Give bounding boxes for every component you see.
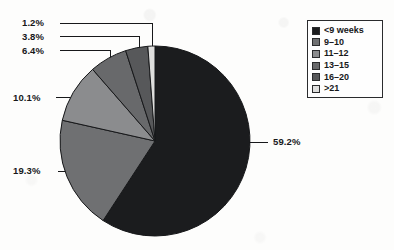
slice-callout-21-plus: 1.2% — [22, 17, 44, 28]
legend-label: >21 — [324, 84, 339, 93]
legend-item-21-plus: >21 — [312, 83, 379, 95]
legend-swatch-icon — [312, 62, 320, 70]
legend-swatch-icon — [312, 85, 320, 93]
legend-item-under-9-weeks: <9 weeks — [312, 25, 379, 37]
slice-callout-11-12: 10.1% — [13, 92, 40, 103]
legend-label: <9 weeks — [324, 26, 364, 35]
legend-swatch-icon — [312, 27, 320, 35]
legend-item-16-20: 16–20 — [312, 71, 379, 83]
pie-slices — [60, 46, 250, 236]
slice-callout-13-15: 6.4% — [22, 45, 44, 56]
legend-label: 16–20 — [324, 73, 349, 82]
legend-label: 9–10 — [324, 38, 344, 47]
legend-swatch-icon — [312, 38, 320, 46]
legend-swatch-icon — [312, 50, 320, 58]
chart-legend: <9 weeks 9–10 11–12 13–15 16–20 >21 — [307, 20, 383, 98]
slice-callout-9-10: 19.3% — [13, 165, 40, 176]
legend-item-11-12: 11–12 — [312, 48, 379, 60]
slice-callout-16-20: 3.8% — [22, 31, 44, 42]
legend-label: 11–12 — [324, 49, 349, 58]
pie-chart-figure: 1.2% 3.8% 6.4% 10.1% 19.3% 59.2% <9 week… — [0, 0, 394, 250]
legend-item-13-15: 13–15 — [312, 60, 379, 72]
leader-line-2 — [60, 37, 139, 50]
legend-label: 13–15 — [324, 61, 349, 70]
legend-item-9-10: 9–10 — [312, 37, 379, 49]
legend-swatch-icon — [312, 73, 320, 81]
slice-callout-under-9-weeks: 59.2% — [273, 136, 300, 147]
